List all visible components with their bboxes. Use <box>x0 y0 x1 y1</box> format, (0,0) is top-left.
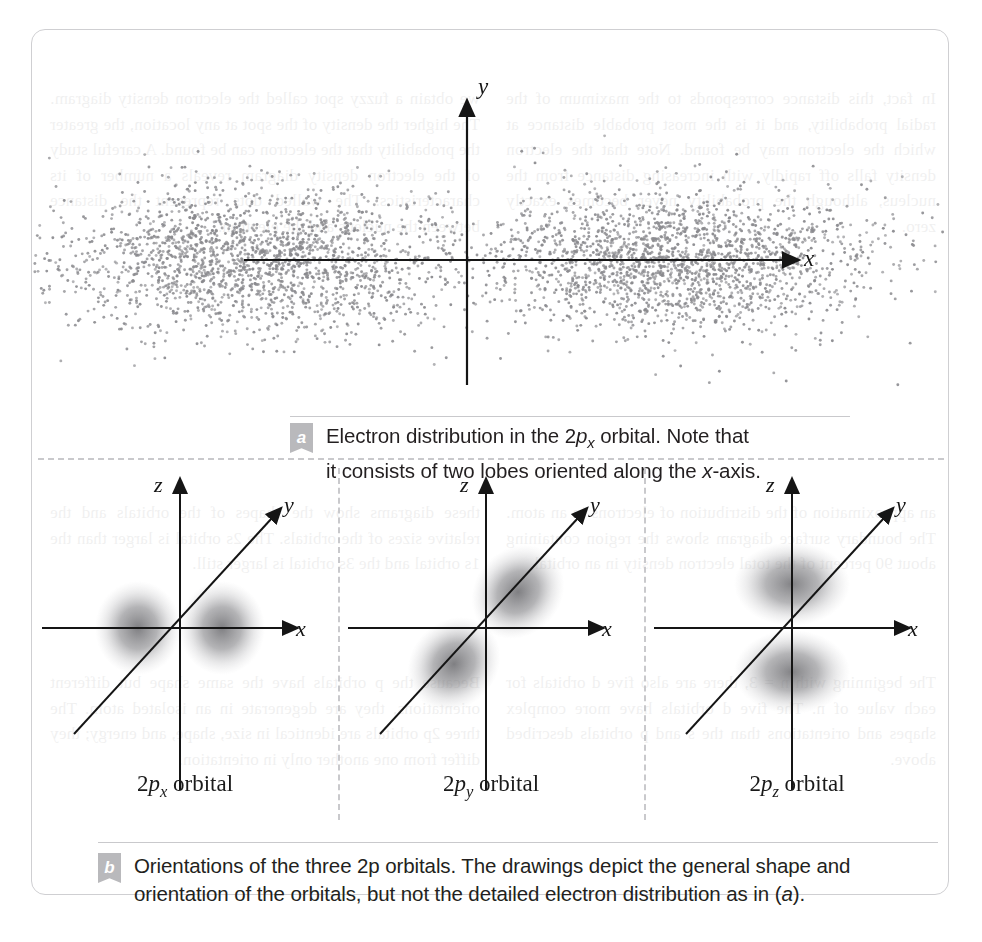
orbital-z-label-2py: z <box>459 472 469 497</box>
orbital-y-label-2py: y <box>588 492 600 517</box>
figure-frame: we obtain a fuzzy spot called the electr… <box>31 29 949 895</box>
orbital-label-2px-suffix: orbital <box>167 771 233 796</box>
orbital-diagram-2px: z x y <box>32 460 338 790</box>
scatter-x-axis-label: x <box>804 246 814 272</box>
orbital-x-label-2pz: x <box>907 616 918 641</box>
orbital-label-2py: 2py orbital <box>338 771 644 802</box>
caption-b-text: Orientations of the three 2p orbitals. T… <box>134 852 850 908</box>
orbital-label-2py-italic: p <box>454 771 466 796</box>
caption-b-line1: Orientations of the three 2p orbitals. T… <box>134 854 850 877</box>
caption-b-badge: b <box>98 853 121 883</box>
orbital-label-2pz-italic: p <box>761 771 773 796</box>
orbital-cell-2py: z x y 2py orbital <box>338 460 644 840</box>
caption-a-line1-post: orbital. Note that <box>595 424 749 447</box>
panel-b-orbital-orientations: z x y 2px orbital <box>32 460 950 840</box>
caption-a-italic-p: p <box>576 424 587 447</box>
orbital-x-label-2py: x <box>601 616 612 641</box>
orbital-label-2pz: 2pz orbital <box>644 771 950 802</box>
orbital-x-label-2px: x <box>295 616 306 641</box>
orbital-label-2px-italic: p <box>148 771 160 796</box>
orbital-label-2px-prefix: 2 <box>137 771 149 796</box>
caption-b: b Orientations of the three 2p orbitals.… <box>98 852 938 908</box>
orbital-y-axis <box>380 518 578 734</box>
scatter-axes <box>32 30 950 430</box>
scatter-y-axis-label: y <box>478 74 488 100</box>
orbital-z-label-2pz: z <box>765 472 775 497</box>
orbital-label-2px: 2px orbital <box>32 771 338 802</box>
orbital-z-label-2px: z <box>153 472 163 497</box>
caption-a-subscript: x <box>587 435 594 451</box>
caption-b-line2-post: ). <box>793 882 805 905</box>
orbital-diagram-2py: z x y <box>338 460 644 790</box>
orbital-diagram-2pz: z x y <box>644 460 950 790</box>
caption-a-rule <box>290 416 850 417</box>
orbital-cell-2px: z x y 2px orbital <box>32 460 338 840</box>
orbital-y-label-2px: y <box>282 492 294 517</box>
orbital-y-label-2pz: y <box>894 492 906 517</box>
caption-a-badge: a <box>290 423 313 453</box>
caption-b-line2-italic: a <box>781 882 792 905</box>
orbital-label-2py-suffix: orbital <box>473 771 539 796</box>
panel-a-electron-density: x y a Electron distribution in the 2px o… <box>32 30 950 458</box>
orbital-label-2pz-prefix: 2 <box>749 771 761 796</box>
caption-b-line2-pre: orientation of the orbitals, but not the… <box>134 882 781 905</box>
orbital-label-2pz-suffix: orbital <box>779 771 845 796</box>
caption-b-rule <box>98 842 938 843</box>
caption-a-line1-pre: Electron distribution in the 2 <box>326 424 576 447</box>
orbital-label-2py-prefix: 2 <box>443 771 455 796</box>
orbital-cell-2pz: z x y 2pz orbital <box>644 460 950 840</box>
